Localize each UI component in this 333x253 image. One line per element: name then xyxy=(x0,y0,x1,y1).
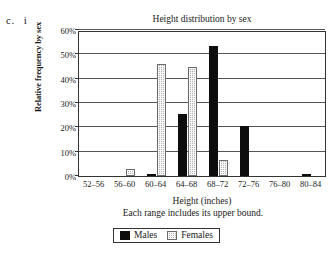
bar-females-56-60 xyxy=(126,169,136,176)
x-tick-label: 52–56 xyxy=(78,179,109,189)
legend-label: Females xyxy=(181,230,213,240)
y-axis-title: Relative frequency by sex xyxy=(33,0,43,142)
gridline xyxy=(79,102,325,103)
x-tick-label: 60–64 xyxy=(140,179,171,189)
legend-label: Males xyxy=(134,230,157,240)
bar-females-60-64 xyxy=(157,64,167,176)
gridline xyxy=(79,29,325,30)
y-tick-label: 10% xyxy=(44,148,76,158)
y-tick-label: 60% xyxy=(44,26,76,36)
bar-males-72-76 xyxy=(240,126,250,176)
y-tick-mark xyxy=(75,78,79,79)
x-tick-label: 56–60 xyxy=(109,179,140,189)
legend-swatch-males-icon xyxy=(120,231,130,240)
bar-males-80-84 xyxy=(302,174,312,176)
y-tick-label: 20% xyxy=(44,123,76,133)
y-tick-mark xyxy=(75,175,79,176)
bar-males-60-64 xyxy=(147,174,157,176)
x-tick-label: 68–72 xyxy=(202,179,233,189)
y-tick-label: 40% xyxy=(44,75,76,85)
chart-title: Height distribution by sex xyxy=(78,14,326,24)
gridline xyxy=(79,151,325,152)
x-axis-title: Height (inches) xyxy=(78,196,326,206)
y-tick-mark xyxy=(75,29,79,30)
y-tick-mark xyxy=(75,151,79,152)
bar-females-64-68 xyxy=(188,67,198,177)
y-tick-mark xyxy=(75,102,79,103)
gridline xyxy=(79,126,325,127)
x-tick-label: 72–76 xyxy=(233,179,264,189)
chart-legend: MalesFemales xyxy=(113,228,220,243)
bar-females-68-72 xyxy=(219,160,229,176)
y-axis-tick-labels: 0%10%20%30%40%50%60% xyxy=(44,31,76,177)
y-tick-mark xyxy=(75,126,79,127)
x-tick-label: 64–68 xyxy=(171,179,202,189)
legend-swatch-females-icon xyxy=(167,231,177,240)
bar-males-64-68 xyxy=(178,114,188,176)
legend-item-females: Females xyxy=(167,230,213,240)
y-tick-mark xyxy=(75,53,79,54)
bar-males-68-72 xyxy=(209,46,219,176)
legend-item-males: Males xyxy=(120,230,157,240)
plot-area xyxy=(78,31,326,177)
y-tick-label: 0% xyxy=(44,172,76,182)
x-tick-label: 76–80 xyxy=(264,179,295,189)
y-tick-label: 50% xyxy=(44,50,76,60)
y-tick-label: 30% xyxy=(44,99,76,109)
x-axis-note: Each range includes its upper bound. xyxy=(48,208,333,218)
x-axis-tick-labels: 52–5656–6060–6464–6868–7272–7676–8080–84 xyxy=(78,179,326,193)
gridline xyxy=(79,53,325,54)
gridline xyxy=(79,78,325,79)
bar-chart-figure: Height distribution by sex Relative freq… xyxy=(0,0,333,253)
x-tick-label: 80–84 xyxy=(295,179,326,189)
